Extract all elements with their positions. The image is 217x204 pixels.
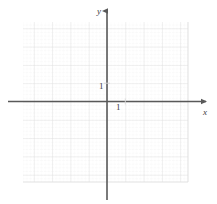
coordinate-plane-figure: y x 1 1 xyxy=(0,0,217,204)
y-axis-unit-label: 1 xyxy=(99,82,104,91)
x-axis-label: x xyxy=(203,108,207,117)
x-axis-unit-label: 1 xyxy=(116,103,121,112)
plot-svg xyxy=(0,0,217,204)
y-axis-label: y xyxy=(97,7,101,16)
